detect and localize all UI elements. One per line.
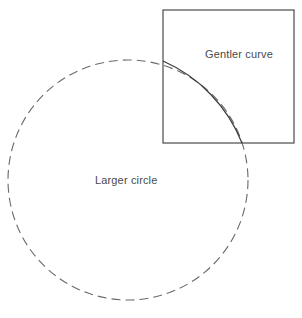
gentler-curve-label: Gentler curve (205, 48, 273, 60)
gentler-arc-shape (163, 61, 242, 143)
diagram-canvas: Gentler curve Larger circle (0, 0, 302, 318)
geometry-figure: Gentler curve Larger circle (0, 0, 302, 318)
square-frame-shape (163, 10, 294, 143)
larger-circle-label: Larger circle (95, 174, 157, 186)
